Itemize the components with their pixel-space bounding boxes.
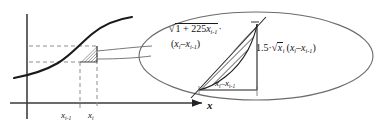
arc-length-figure: x xi-1 xi √1 + 225xi-1· (xi–xi-1) 1.5·√x… [0, 0, 377, 131]
vertical-side-label: 1.5·√xi (xi–xi-1) [256, 42, 316, 54]
tick-label-xi: xi [88, 111, 94, 121]
dashed-guides [29, 46, 97, 108]
function-curve [14, 17, 132, 78]
hypotenuse-label-line2: (xi–xi-1) [171, 39, 200, 50]
base-side-label: xi–xi-1 [215, 79, 235, 89]
x-axis-label: x [207, 100, 213, 111]
x-axis-arrowhead [192, 99, 202, 107]
tick-label-xim1: xi-1 [61, 111, 71, 121]
hypotenuse-label-line1: √1 + 225xi-1· [169, 23, 222, 35]
figure-canvas [0, 0, 377, 131]
small-detail-triangle [78, 44, 100, 64]
magnifier-callout-lines [97, 46, 152, 59]
